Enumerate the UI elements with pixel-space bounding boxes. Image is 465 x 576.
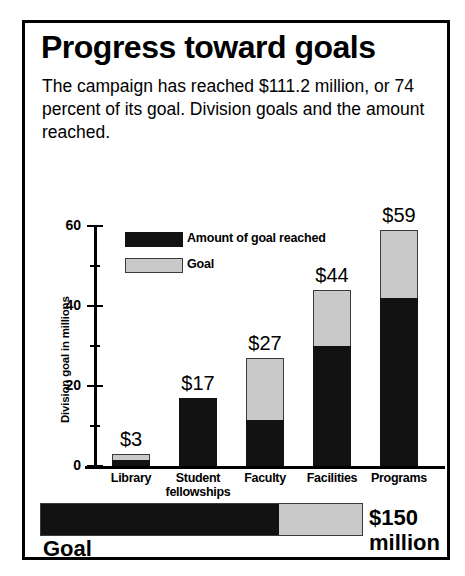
y-tick-label: 20 xyxy=(41,377,81,393)
page-title: Progress toward goals xyxy=(41,31,375,65)
goal-amount: $150 million xyxy=(369,505,441,556)
bar-segment-reached xyxy=(246,420,284,466)
y-tick-major xyxy=(87,225,103,227)
goal-amount-value: $150 xyxy=(369,505,441,530)
legend-swatch-gray xyxy=(125,258,183,273)
subtitle-text: The campaign has reached $111.2 million,… xyxy=(42,75,432,144)
bar-value-label: $27 xyxy=(230,332,300,355)
legend-swatch-black xyxy=(125,232,183,247)
y-tick-major xyxy=(87,385,103,387)
goal-progress-fill xyxy=(41,504,279,535)
y-tick-minor xyxy=(90,425,100,427)
y-tick-label: 0 xyxy=(41,457,81,473)
legend-label: Amount of goal reached xyxy=(187,231,326,245)
y-tick-label: 60 xyxy=(41,217,81,233)
infographic-panel: Progress toward goals The campaign has r… xyxy=(22,20,450,560)
bar-segment-reached xyxy=(313,346,351,466)
goal-amount-unit: million xyxy=(369,530,441,555)
x-axis-line xyxy=(85,466,445,469)
bar-value-label: $44 xyxy=(297,264,367,287)
bar-chart: Division goal in millions 0204060 $3Libr… xyxy=(37,193,447,483)
goal-progress-track xyxy=(40,503,363,536)
bar-library[interactable] xyxy=(112,454,150,466)
bar-segment-reached xyxy=(179,398,217,466)
bar-student[interactable] xyxy=(179,398,217,466)
bar-faculty[interactable] xyxy=(246,358,284,466)
legend-label: Goal xyxy=(187,257,214,271)
goal-label: Goal xyxy=(43,536,92,562)
bar-segment-reached xyxy=(112,460,150,466)
y-tick-minor xyxy=(90,265,100,267)
bar-value-label: $59 xyxy=(364,204,434,227)
y-axis-label: Division goal in millions xyxy=(45,255,61,425)
bar-value-label: $17 xyxy=(163,372,233,395)
bar-segment-reached xyxy=(380,298,418,466)
y-axis-label-text: Division goal in millions xyxy=(59,296,71,423)
x-axis-label-programs: Programs xyxy=(356,471,442,485)
y-tick-major xyxy=(87,305,103,307)
bar-value-label: $3 xyxy=(96,428,166,451)
y-tick-label: 40 xyxy=(41,297,81,313)
y-tick-major xyxy=(87,465,103,467)
overall-goal-bar: Goal $150 million xyxy=(39,503,439,573)
bar-facilities[interactable] xyxy=(313,290,351,466)
bar-programs[interactable] xyxy=(380,230,418,466)
y-tick-minor xyxy=(90,345,100,347)
